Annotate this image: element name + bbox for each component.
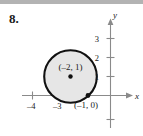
y-tick-label-3: 3 <box>95 34 99 44</box>
x-axis-label: x <box>134 91 139 101</box>
y-axis-label: y <box>112 10 117 20</box>
math-figure: 8. y x –4 –3 1 2 3 (–2, 1) <box>0 0 143 136</box>
y-tick-label-1: 1 <box>95 72 99 82</box>
x-axis-arrow <box>126 93 133 99</box>
center-point-label: (–2, 1) <box>59 62 83 72</box>
x-tick-label--4: –4 <box>26 101 36 111</box>
circle-edge-point <box>86 93 91 98</box>
center-point <box>68 74 72 78</box>
x-tick-label--3: –3 <box>52 101 62 111</box>
coordinate-plane: y x –4 –3 1 2 3 (–2, 1) (–1, 0) <box>0 0 143 136</box>
y-tick-label-2: 2 <box>95 53 99 63</box>
circle-edge-point-label: (–1, 0) <box>74 100 98 110</box>
